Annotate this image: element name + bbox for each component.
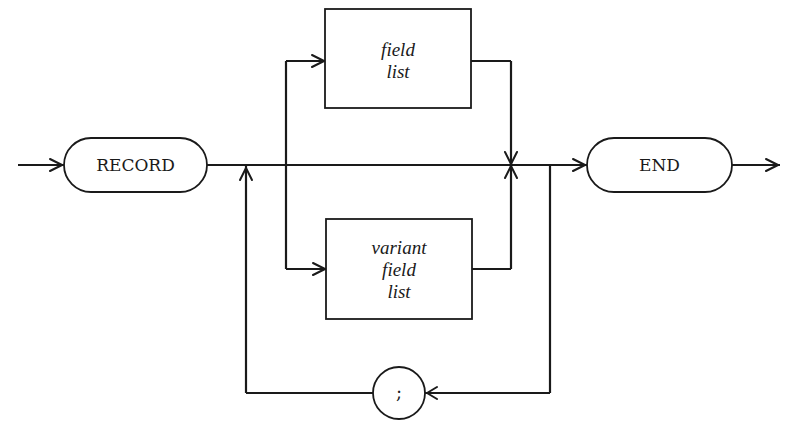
- end-terminal: END: [587, 138, 732, 192]
- main-line: [207, 159, 587, 171]
- variant-field-list-label-line1: variant: [372, 237, 428, 258]
- entry-connector: [18, 159, 64, 171]
- separator-label: ;: [396, 382, 402, 403]
- record-terminal: RECORD: [64, 138, 207, 192]
- variant-field-list-label-line2: field: [382, 259, 416, 280]
- field-list-label-line1: field: [381, 39, 415, 60]
- syntax-diagram: RECORD field list variant field list: [0, 0, 787, 429]
- end-label: END: [639, 155, 680, 175]
- field-list-label-line2: list: [386, 61, 410, 82]
- exit-connector: [732, 159, 780, 171]
- variant-field-list-label-line3: list: [387, 281, 411, 302]
- record-label: RECORD: [96, 155, 175, 175]
- loop-return-left: [240, 166, 252, 393]
- variant-field-list-box: variant field list: [326, 219, 472, 319]
- separator-loop: ;: [246, 367, 550, 419]
- field-list-box: field list: [325, 9, 471, 108]
